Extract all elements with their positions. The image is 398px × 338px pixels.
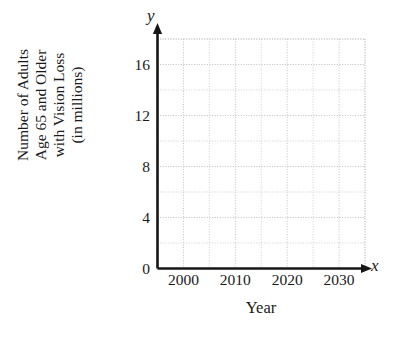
- chart-figure: Number of Adults Age 65 and Older with V…: [0, 0, 398, 338]
- plot-area: [0, 0, 398, 338]
- grid-major-vertical: [183, 39, 365, 269]
